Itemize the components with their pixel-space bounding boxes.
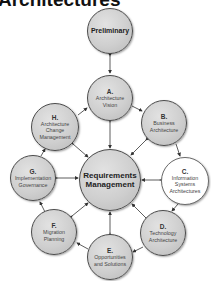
node-name: Migration Planning — [37, 229, 71, 242]
arrow-center-d — [132, 204, 146, 218]
node-name: Architecture Vision — [93, 95, 127, 108]
node-name: Preliminary — [91, 28, 129, 34]
arrow-e-f — [77, 243, 88, 249]
arrow-center-b — [131, 140, 146, 155]
node-name: Opportunities and Solutions — [92, 254, 128, 267]
node-f-migration-planning: F. Migration Planning — [31, 209, 77, 255]
node-preliminary: Preliminary — [87, 8, 133, 54]
node-a-architecture-vision: A. Architecture Vision — [87, 75, 133, 121]
node-name: Implementation Governance — [12, 175, 54, 188]
node-h-architecture-change-management: H. Architecture Change Management — [31, 103, 79, 151]
arrow-h-a — [78, 108, 87, 115]
node-letter: E. — [107, 247, 113, 254]
arrow-center-f — [72, 203, 88, 216]
node-letter: D. — [160, 223, 167, 230]
node-g-implementation-governance: G. Implementation Governance — [10, 155, 56, 201]
node-d-technology-architecture: D. Technology Architecture — [140, 210, 186, 256]
node-name: Architecture Change Management — [36, 121, 74, 140]
node-letter: C. — [182, 168, 189, 175]
node-name: Business Architecture — [147, 120, 181, 133]
node-letter: G. — [30, 168, 37, 175]
node-b-business-architecture: B. Business Architecture — [141, 100, 187, 146]
node-letter: A. — [107, 88, 114, 95]
arrow-center-h — [73, 144, 88, 157]
arrow-a-b — [132, 106, 142, 111]
arrow-b-c — [176, 144, 180, 156]
node-letter: H. — [52, 114, 59, 121]
node-c-information-systems-architectures: C. Information Systems Architectures — [161, 157, 209, 205]
node-requirements-management: Requirements Management — [79, 149, 141, 211]
node-e-opportunities-and-solutions: E. Opportunities and Solutions — [87, 234, 133, 280]
node-letter: F. — [51, 222, 56, 229]
arrow-g-h — [41, 149, 45, 156]
node-name: Technology Architecture — [145, 230, 181, 243]
node-name: Requirements Management — [82, 171, 138, 190]
arrow-c-d — [172, 204, 178, 211]
arrow-d-e — [133, 247, 143, 252]
node-name: Information Systems Architectures — [165, 175, 205, 194]
node-letter: B. — [161, 113, 168, 120]
